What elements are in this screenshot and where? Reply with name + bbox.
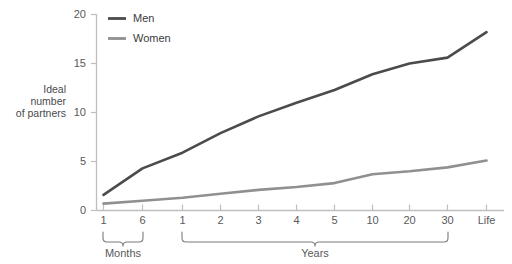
x-tick-label-5: 4 — [293, 214, 299, 226]
x-tick-label-4: 3 — [255, 214, 261, 226]
y-tick-label-0: 0 — [80, 204, 86, 216]
y-tick-label-10: 10 — [74, 106, 86, 118]
months-group-label: Months — [105, 247, 142, 259]
y-tick-label-15: 15 — [74, 57, 86, 69]
legend-label-women: Women — [133, 32, 171, 44]
x-tick-label-0: 1 — [100, 214, 106, 226]
years-group-label: Years — [301, 247, 329, 259]
years-group-brace — [182, 232, 448, 246]
legend: Men Women — [108, 12, 171, 44]
x-tick-label-1: 6 — [139, 214, 145, 226]
y-axis-title-line-1: Ideal — [43, 83, 66, 95]
y-tick-label-5: 5 — [80, 155, 86, 167]
y-axis-title-line-3: of partners — [16, 107, 66, 119]
y-axis-title-line-2: number — [30, 95, 66, 107]
months-group-brace — [103, 232, 143, 246]
line-chart: 20 15 10 5 0 Ideal number of partners — [0, 0, 512, 264]
x-tick-label-9: 30 — [441, 214, 453, 226]
x-tick-label-8: 20 — [403, 214, 415, 226]
y-tick-labels: 20 15 10 5 0 — [74, 8, 86, 216]
x-tick-label-7: 10 — [366, 214, 378, 226]
x-tick-label-2: 1 — [179, 214, 185, 226]
y-tick-marks — [91, 15, 97, 211]
x-tick-marks — [104, 205, 487, 211]
x-tick-labels: 1 6 1 2 3 4 5 10 20 30 Life — [100, 214, 495, 226]
y-tick-label-20: 20 — [74, 8, 86, 20]
legend-label-men: Men — [133, 12, 154, 24]
x-tick-label-6: 5 — [331, 214, 337, 226]
y-axis-title: Ideal number of partners — [16, 83, 67, 119]
x-tick-label-10: Life — [478, 214, 496, 226]
x-tick-label-3: 2 — [217, 214, 223, 226]
chart-container: 20 15 10 5 0 Ideal number of partners — [0, 0, 512, 264]
series-line-women — [104, 161, 487, 204]
